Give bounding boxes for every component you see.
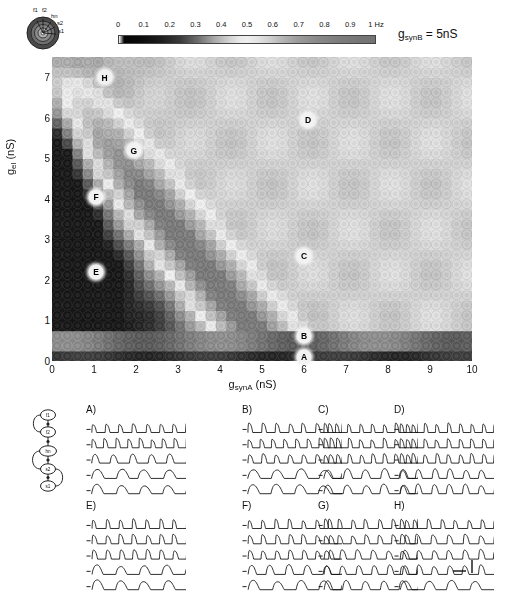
schematic-label-f1: f1 <box>33 7 38 13</box>
x-tick-7: 7 <box>343 364 349 375</box>
condition-value: = 5nS <box>426 27 458 41</box>
colorbar-tick-8: 0.8 <box>319 20 329 29</box>
colorbar-tick-4: 0.4 <box>216 20 226 29</box>
trace-panel-a: A) <box>86 404 186 500</box>
schematic-label-s2: s2 <box>57 20 63 26</box>
heatmap-plot[interactable]: ABCDEFGH <box>52 57 472 361</box>
trace-panel-label: D) <box>394 404 405 415</box>
condition-base: g <box>398 27 405 41</box>
colorbar-tick-10: 1 Hz <box>368 20 383 29</box>
condition-subscript: synB <box>405 33 423 42</box>
x-tick-6: 6 <box>301 364 307 375</box>
x-axis-subscript: synA <box>235 383 253 392</box>
svg-text:f1: f1 <box>46 413 50 418</box>
trace-panel-label: G) <box>318 500 329 511</box>
schematic-label-s1: s1 <box>58 28 64 34</box>
voltage-trace <box>92 453 186 463</box>
voltage-trace <box>92 565 186 574</box>
heatmap-marker-g[interactable]: G <box>126 143 141 158</box>
circuit-diagram: f1f2 hns2 s1 <box>28 408 68 492</box>
heatmap-marker-h[interactable]: H <box>97 70 112 85</box>
voltage-trace <box>400 580 494 589</box>
colorbar-tick-2: 0.2 <box>164 20 174 29</box>
y-axis-base: g <box>4 169 16 175</box>
voltage-trace <box>400 484 494 494</box>
x-tick-5: 5 <box>259 364 265 375</box>
neuron-schematic-icon: f1 f2 hn s2 s1 <box>24 8 70 52</box>
x-tick-1: 1 <box>91 364 97 375</box>
voltage-trace <box>92 423 186 432</box>
trace-panel-label: H) <box>394 500 405 511</box>
trace-panel-h: H) <box>394 500 494 596</box>
heatmap-marker-a[interactable]: A <box>297 349 312 364</box>
colorbar-tick-6: 0.6 <box>268 20 278 29</box>
heatmap-marker-c[interactable]: C <box>297 248 312 263</box>
voltage-trace <box>92 438 186 448</box>
svg-text:f2: f2 <box>46 430 50 435</box>
y-tick-6: 6 <box>44 112 50 123</box>
voltage-trace <box>400 519 494 528</box>
x-tick-0: 0 <box>49 364 55 375</box>
x-axis-title: gsynA (nS) <box>0 378 505 392</box>
voltage-trace <box>400 469 494 479</box>
x-axis-unit: (nS) <box>256 378 277 390</box>
colorbar-tick-1: 0.1 <box>139 20 149 29</box>
y-tick-3: 3 <box>44 234 50 245</box>
y-tick-1: 1 <box>44 315 50 326</box>
colorbar-tick-0: 0 <box>116 20 120 29</box>
x-tick-2: 2 <box>133 364 139 375</box>
x-tick-10: 10 <box>466 364 477 375</box>
voltage-trace <box>400 565 494 575</box>
x-tick-3: 3 <box>175 364 181 375</box>
voltage-trace <box>92 534 186 544</box>
heatmap-marker-e[interactable]: E <box>89 264 104 279</box>
colorbar-gradient <box>118 35 376 44</box>
x-tick-4: 4 <box>217 364 223 375</box>
condition-label: gsynB = 5nS <box>398 27 458 42</box>
x-tick-8: 8 <box>385 364 391 375</box>
time-voltage-scale-bar <box>452 559 476 575</box>
y-tick-4: 4 <box>44 193 50 204</box>
voltage-trace <box>92 469 186 478</box>
y-axis-ticks: 01234567 <box>20 57 50 361</box>
trace-set <box>86 512 186 596</box>
y-tick-5: 5 <box>44 153 50 164</box>
trace-set <box>86 416 186 500</box>
figure-header: f1 f2 hn s2 s1 00.10.20.30.40.50.60.70.8… <box>0 0 505 56</box>
y-axis-unit: (nS) <box>4 139 16 160</box>
svg-text:s1: s1 <box>46 484 51 489</box>
y-tick-2: 2 <box>44 274 50 285</box>
schematic-label-hn: hn <box>51 13 57 19</box>
y-axis-title: gel (nS) <box>4 139 18 175</box>
schematic-label-f2: f2 <box>42 7 47 13</box>
trace-panel-d: D) <box>394 404 494 500</box>
svg-text:s2: s2 <box>46 467 51 472</box>
svg-text:hn: hn <box>45 449 51 454</box>
colorbar-tick-labels: 00.10.20.30.40.50.60.70.80.91 Hz <box>118 20 376 33</box>
voltage-trace <box>400 549 494 559</box>
heatmap-marker-d[interactable]: D <box>301 112 316 127</box>
trace-panel-label: E) <box>86 500 96 511</box>
y-tick-7: 7 <box>44 72 50 83</box>
x-tick-9: 9 <box>427 364 433 375</box>
colorbar: 00.10.20.30.40.50.60.70.80.91 Hz <box>118 20 376 52</box>
heatmap-canvas[interactable] <box>52 57 472 361</box>
heatmap-marker-b[interactable]: B <box>297 328 312 343</box>
colorbar-tick-5: 0.5 <box>242 20 252 29</box>
trace-panel-label: B) <box>242 404 252 415</box>
voltage-trace <box>92 484 186 493</box>
voltage-trace <box>400 453 494 463</box>
voltage-trace <box>92 519 186 529</box>
y-axis-subscript: el <box>9 163 18 169</box>
voltage-trace <box>400 439 494 448</box>
trace-panel-label: A) <box>86 404 96 415</box>
colorbar-tick-3: 0.3 <box>190 20 200 29</box>
voltage-trace <box>92 549 186 559</box>
voltage-trace <box>400 423 494 433</box>
heatmap-marker-f[interactable]: F <box>89 189 104 204</box>
trace-panel-label: F) <box>242 500 251 511</box>
trace-set <box>394 512 494 596</box>
trace-set <box>394 416 494 500</box>
trace-panel-e: E) <box>86 500 186 596</box>
colorbar-tick-9: 0.9 <box>345 20 355 29</box>
